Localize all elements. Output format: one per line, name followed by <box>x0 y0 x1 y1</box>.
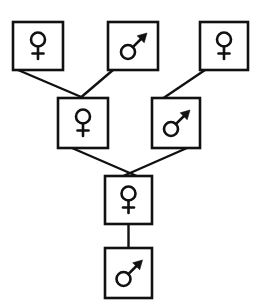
node-n3[interactable] <box>200 22 248 70</box>
node-n6[interactable] <box>105 176 152 224</box>
edge-n5-to-n6 <box>121 148 187 177</box>
edge-n3-to-n5 <box>162 70 205 99</box>
node-n7[interactable] <box>105 248 152 298</box>
pedigree-diagram <box>0 0 260 307</box>
pedigree-diagram-canvas <box>0 0 260 307</box>
node-n1[interactable] <box>13 22 63 70</box>
edge-n2-to-n4 <box>79 70 113 99</box>
edge-n1-to-n4 <box>18 70 86 99</box>
node-n4[interactable] <box>58 98 108 148</box>
node-n5[interactable] <box>152 98 200 148</box>
node-n2[interactable] <box>108 22 158 70</box>
